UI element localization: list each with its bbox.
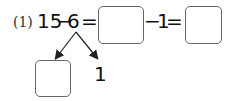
decomposition-value: 1 bbox=[94, 62, 107, 86]
decomposition-box[interactable] bbox=[35, 60, 71, 97]
